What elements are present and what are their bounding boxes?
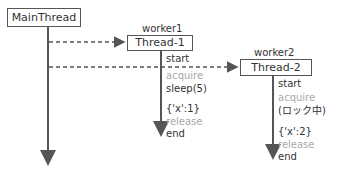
w2-acquire: acquire [278, 92, 315, 104]
w1-value: {'x':1} [166, 103, 200, 115]
w1-end: end [166, 128, 185, 140]
main-thread-box: MainThread [7, 8, 81, 27]
worker2-label: worker2 [254, 47, 294, 59]
w2-value: {'x':2} [278, 126, 312, 138]
w2-release: release [278, 139, 314, 151]
w2-end: end [278, 151, 297, 163]
w1-acquire: acquire [166, 70, 203, 82]
worker1-label: worker1 [142, 23, 182, 35]
w1-sleep: sleep(5) [166, 83, 207, 95]
thread2-box: Thread-2 [240, 59, 312, 76]
thread1-box: Thread-1 [127, 35, 193, 51]
w1-release: release [166, 116, 202, 128]
w1-start: start [166, 53, 189, 65]
w2-start: start [278, 78, 301, 90]
w2-locked: (ロック中) [278, 105, 326, 117]
